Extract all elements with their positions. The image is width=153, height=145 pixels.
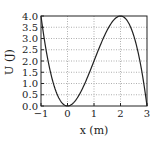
energy-plot: 0.00.51.01.52.02.53.03.54.0 −10123 U (J)… <box>0 0 153 145</box>
y-tick-label: 3.0 <box>22 33 38 44</box>
x-tick-label: 2 <box>117 108 123 119</box>
x-tick-label: −1 <box>34 108 49 119</box>
y-tick-label: 3.5 <box>22 22 38 33</box>
x-tick-label: 1 <box>91 108 97 119</box>
x-axis-ticks: −10123 <box>34 103 151 119</box>
y-tick-label: 1.5 <box>22 67 38 78</box>
x-tick-label: 0 <box>64 108 70 119</box>
y-tick-label: 2.5 <box>22 44 38 55</box>
x-axis-label: x (m) <box>80 124 109 137</box>
y-tick-label: 0.5 <box>22 89 38 100</box>
y-tick-label: 2.0 <box>22 56 38 67</box>
y-tick-label: 1.0 <box>22 78 38 89</box>
y-tick-label: 4.0 <box>22 11 38 22</box>
y-axis-label: U (J) <box>3 49 16 75</box>
x-tick-label: 3 <box>144 108 150 119</box>
